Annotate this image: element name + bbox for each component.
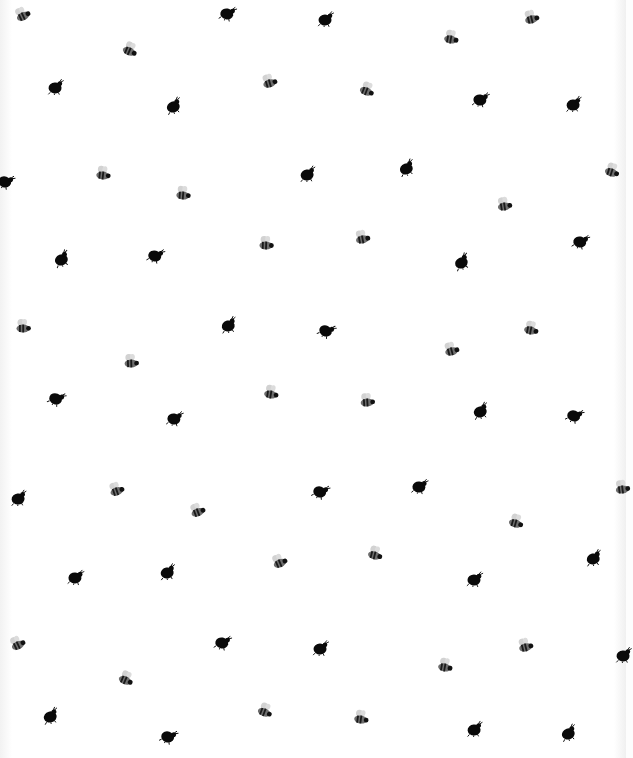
ladybug-icon [156,562,178,581]
ladybug-icon [464,571,484,587]
ladybug-icon [582,548,605,568]
ladybug-icon [7,489,29,507]
bee-icon [520,318,543,338]
ladybug-icon [315,11,335,27]
ladybug-icon [310,640,330,656]
bee-icon [257,71,281,92]
bee-icon [5,632,30,655]
ladybug-icon [0,170,17,192]
ladybug-icon [469,90,491,109]
bee-icon [440,27,462,46]
bee-icon [185,499,209,521]
ladybug-icon [613,646,633,663]
ladybug-icon [163,409,185,427]
bee-icon [256,235,277,252]
ladybug-icon [161,95,185,116]
ladybug-icon [314,319,339,342]
ladybug-icon [308,480,332,501]
bee-icon [260,383,282,402]
bee-icon [172,184,193,201]
ladybug-icon [216,315,239,335]
ladybug-icon [156,725,180,747]
ladybug-icon [556,722,580,743]
bee-icon [118,38,143,61]
ladybug-icon [463,720,484,738]
bee-icon [351,227,374,247]
ladybug-icon [65,568,86,585]
ladybug-icon [216,3,239,23]
bee-icon [10,3,35,26]
ladybug-icon [45,78,66,95]
bee-icon [356,391,377,408]
bee-icon [121,353,142,370]
ladybug-icon [49,248,74,270]
bee-icon [434,655,456,674]
ladybug-icon [449,251,474,274]
ladybug-icon [143,245,166,266]
bee-icon [92,164,114,182]
ladybug-icon [296,165,318,183]
bee-icon [363,543,386,563]
ladybug-icon [562,95,583,113]
ladybug-icon [394,157,418,179]
ladybug-icon [568,231,591,251]
ladybug-icon [408,477,429,495]
bee-icon [104,478,128,500]
bee-icon [611,478,633,497]
bee-icon [600,159,624,180]
ladybug-icon [44,387,69,409]
ladybug-icon [562,404,586,426]
bee-icon [513,635,536,655]
bee-icon [114,667,139,690]
bee-icon [13,318,33,334]
bee-icon [355,78,379,100]
bee-icon [439,339,462,360]
bee-icon [493,195,515,214]
bee-icon [253,699,277,721]
ladybug-icon [468,400,492,421]
bee-icon [519,7,542,27]
ladybug-icon [211,632,234,652]
ladybug-icon [38,706,62,727]
bee-icon [504,511,528,532]
bee-icon [350,708,372,727]
bee-icon [267,550,292,573]
